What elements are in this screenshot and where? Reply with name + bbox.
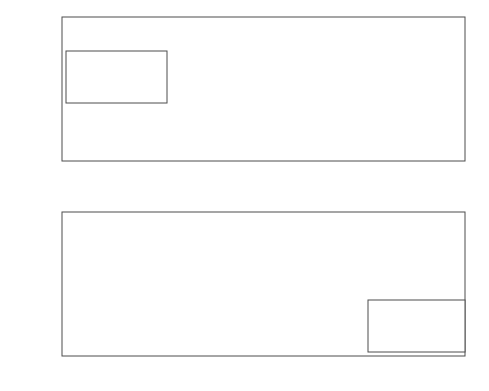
- chart-panel-bottom: [0, 195, 489, 391]
- top-chart-svg: [0, 0, 489, 196]
- figure-container: [0, 0, 489, 391]
- chart-panel-top: [0, 0, 489, 196]
- bottom-legend-box: [368, 300, 465, 352]
- top-legend[interactable]: [66, 51, 167, 103]
- top-legend-box: [66, 51, 167, 103]
- bottom-legend[interactable]: [368, 300, 465, 352]
- bottom-chart-svg: [0, 195, 489, 391]
